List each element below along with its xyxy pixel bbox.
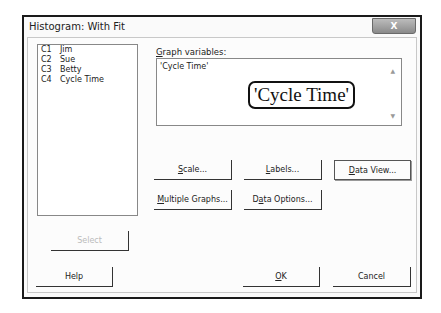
dialog-body: C1 Jim C2 Sue C3 Betty C4 Cycle Time Gra…: [27, 37, 417, 293]
select-button[interactable]: Select: [51, 231, 129, 251]
dialog-title: Histogram: With Fit: [29, 21, 125, 32]
annotation-callout: 'Cycle Time': [248, 81, 355, 109]
column-name: Cycle Time: [60, 75, 104, 85]
help-button[interactable]: Help: [36, 267, 113, 287]
column-id: C2: [41, 55, 60, 65]
ok-button[interactable]: OK: [243, 267, 320, 287]
close-icon: X: [391, 21, 398, 31]
cancel-button[interactable]: Cancel: [333, 267, 411, 287]
graph-variables-label-rest: raph variables:: [163, 47, 227, 57]
column-id: C3: [41, 65, 60, 75]
column-id: C1: [41, 45, 60, 55]
columns-listbox[interactable]: C1 Jim C2 Sue C3 Betty C4 Cycle Time: [37, 44, 138, 216]
scroll-down-icon[interactable]: ▼: [390, 112, 395, 119]
graph-variables-value: 'Cycle Time': [160, 62, 208, 71]
list-item[interactable]: C2 Sue: [38, 55, 137, 65]
list-item[interactable]: C4 Cycle Time: [38, 75, 137, 85]
column-name: Jim: [60, 45, 72, 55]
column-name: Sue: [60, 55, 75, 65]
data-view-button[interactable]: Data View...: [334, 160, 411, 180]
data-options-button[interactable]: Data Options...: [244, 190, 322, 210]
graph-variables-label: Graph variables:: [156, 47, 226, 57]
list-item[interactable]: C3 Betty: [38, 65, 137, 75]
scale-button[interactable]: Scale...: [154, 160, 232, 180]
labels-button[interactable]: Labels...: [244, 160, 322, 180]
close-button[interactable]: X: [372, 18, 416, 34]
list-item[interactable]: C1 Jim: [38, 45, 137, 55]
histogram-dialog: Histogram: With Fit X C1 Jim C2 Sue C3 B…: [22, 15, 422, 299]
column-id: C4: [41, 75, 60, 85]
multiple-graphs-button[interactable]: Multiple Graphs...: [154, 190, 232, 210]
column-name: Betty: [60, 65, 81, 75]
scroll-up-icon[interactable]: ▲: [390, 67, 395, 74]
